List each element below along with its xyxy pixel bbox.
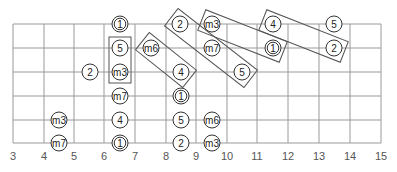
note-marker: 5 bbox=[112, 40, 128, 56]
note-marker: 4 bbox=[265, 16, 281, 32]
note-marker: 2 bbox=[172, 16, 188, 32]
fretboard-diagram: 12m3455m6m7122m345m71m345m6m712m3 345678… bbox=[0, 0, 397, 172]
note-label: 2 bbox=[178, 138, 184, 149]
fret-number-label: 12 bbox=[282, 150, 294, 162]
fret-number-label: 5 bbox=[71, 150, 77, 162]
fret-number-label: 11 bbox=[251, 150, 262, 162]
note-marker: m7 bbox=[112, 88, 128, 104]
note-label: 2 bbox=[331, 43, 337, 54]
note-label: 4 bbox=[270, 19, 276, 30]
note-marker: m3 bbox=[112, 64, 128, 80]
note-label: 5 bbox=[331, 19, 337, 30]
note-marker: m6 bbox=[204, 112, 220, 128]
note-label: 1 bbox=[117, 19, 123, 30]
note-label: 4 bbox=[178, 67, 184, 78]
fret-number-label: 15 bbox=[375, 150, 387, 162]
note-marker: 4 bbox=[112, 112, 128, 128]
fret-number-label: 13 bbox=[313, 150, 325, 162]
fret-number-label: 3 bbox=[10, 150, 16, 162]
note-label: m7 bbox=[205, 43, 219, 54]
fret-number-label: 9 bbox=[193, 150, 199, 162]
note-label: m3 bbox=[113, 67, 127, 78]
note-label: 1 bbox=[178, 91, 184, 102]
note-label: 2 bbox=[177, 19, 183, 30]
fret-number-label: 7 bbox=[132, 150, 138, 162]
fret-number-labels: 3456789101112131415 bbox=[10, 150, 387, 162]
root-note-marker: 1 bbox=[112, 16, 128, 32]
fret-number-label: 14 bbox=[344, 150, 356, 162]
note-label: 5 bbox=[117, 43, 123, 54]
note-marker: 4 bbox=[173, 64, 189, 80]
note-label: m7 bbox=[52, 138, 66, 149]
note-label: 1 bbox=[270, 43, 276, 54]
note-label: m7 bbox=[113, 91, 127, 102]
note-marker: m7 bbox=[51, 135, 67, 151]
note-marker: m3 bbox=[204, 16, 220, 32]
fretboard-grid bbox=[13, 24, 381, 143]
note-marker: m7 bbox=[204, 40, 220, 56]
note-marker: 2 bbox=[326, 40, 342, 56]
fret-number-label: 4 bbox=[41, 150, 47, 162]
note-label: 5 bbox=[239, 67, 245, 78]
note-label: m6 bbox=[144, 43, 158, 54]
root-note-marker: 1 bbox=[112, 135, 128, 151]
fret-number-label: 8 bbox=[163, 150, 169, 162]
root-note-marker: 1 bbox=[265, 40, 281, 56]
note-label: 1 bbox=[117, 138, 123, 149]
note-marker: 5 bbox=[326, 16, 342, 32]
note-marker: 5 bbox=[173, 112, 189, 128]
note-label: 4 bbox=[117, 115, 123, 126]
note-label: m3 bbox=[205, 19, 219, 30]
note-label: m3 bbox=[205, 138, 219, 149]
note-label: 5 bbox=[178, 115, 184, 126]
note-label: 2 bbox=[87, 67, 93, 78]
note-marker: 2 bbox=[173, 135, 189, 151]
note-marker: 5 bbox=[234, 64, 250, 80]
root-note-marker: 1 bbox=[173, 88, 189, 104]
note-label: m3 bbox=[52, 115, 66, 126]
note-marker: m3 bbox=[204, 135, 220, 151]
note-marker: m6 bbox=[143, 40, 159, 56]
fret-number-label: 6 bbox=[101, 150, 107, 162]
fret-number-label: 10 bbox=[221, 150, 233, 162]
note-marker: m3 bbox=[51, 112, 67, 128]
note-marker: 2 bbox=[82, 64, 98, 80]
note-label: m6 bbox=[205, 115, 219, 126]
